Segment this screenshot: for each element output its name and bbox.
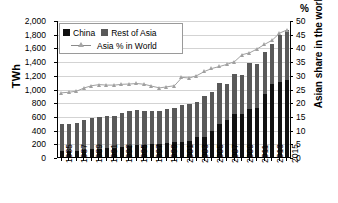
line-marker-triangle-icon [255,47,259,51]
x-tick-mark [151,158,152,161]
y2-tick-label: 25 [296,86,314,94]
x-tick-mark [121,158,122,161]
legend-label-rest-of-asia: Rest of Asia [111,28,156,38]
line-marker-triangle-icon [82,86,86,90]
legend-line-triangle-icon [71,42,91,49]
legend-swatch-china-icon [63,29,70,36]
line-marker-triangle-icon [59,91,63,95]
y2-tick-label: 30 [296,72,314,80]
y-tick-label: 0 [12,154,46,162]
x-tick-mark [98,158,99,161]
y2-tick-label: 15 [296,113,314,121]
line-marker-triangle-icon [240,53,244,57]
line-marker-triangle-icon [262,42,266,46]
x-tick-mark [61,158,62,161]
x-tick-mark [174,158,175,161]
x-tick-mark [256,158,257,161]
x-tick-mark [226,158,227,161]
line-marker-triangle-icon [179,75,183,79]
y-tick-label: 600 [12,113,46,121]
line-marker-triangle-icon [194,74,198,78]
y-tick-label: 200 [12,140,46,148]
x-tick-mark [106,158,107,161]
line-marker-triangle-icon [112,83,116,87]
y2-tick-label: 35 [296,58,314,66]
y2-tick-label: 50 [296,17,314,25]
line-marker-triangle-icon [232,60,236,64]
x-tick-mark [286,158,287,161]
line-marker-triangle-icon [67,90,71,94]
x-tick-mark [143,158,144,161]
line-marker-triangle-icon [104,83,108,87]
y2-tick-label: 20 [296,99,314,107]
legend-row-line: Asia % in World [63,39,179,52]
x-tick-mark [264,158,265,161]
chart-figure: TWh % Asian share in the world 2,0001,80… [0,0,338,203]
y-tick-label: 400 [12,127,46,135]
line-marker-triangle-icon [209,66,213,70]
y-tick-label: 1,000 [12,86,46,94]
x-tick-mark [166,158,167,161]
legend-label-asia-share: Asia % in World [97,41,157,51]
x-tick-mark [204,158,205,161]
x-tick-mark [249,158,250,161]
legend-swatch-rest-of-asia-icon [101,29,108,36]
line-marker-triangle-icon [172,84,176,88]
y-tick-mark [54,158,57,159]
x-tick-mark [181,158,182,161]
y-tick-label: 1,200 [12,72,46,80]
y2-tick-label: 40 [296,44,314,52]
x-tick-mark [113,158,114,161]
line-marker-triangle-icon [89,84,93,88]
line-marker-triangle-icon [270,38,274,42]
line-marker-triangle-icon [149,84,153,88]
x-tick-mark [189,158,190,161]
x-tick-mark [211,158,212,161]
legend-label-china: China [73,28,95,38]
x-tick-mark [241,158,242,161]
x-tick-mark [91,158,92,161]
x-tick-mark [158,158,159,161]
y2-axis-spine [290,21,291,158]
legend-row-bars: China Rest of Asia [63,26,179,39]
line-marker-triangle-icon [202,69,206,73]
line-marker-triangle-icon [119,82,123,86]
line-marker-triangle-icon [285,28,289,32]
line-marker-triangle-icon [142,82,146,86]
line-marker-triangle-icon [97,83,101,87]
chart-legend: China Rest of Asia Asia % in World [59,23,183,54]
line-marker-triangle-icon [225,62,229,66]
x-tick-mark [76,158,77,161]
line-marker-triangle-icon [127,82,131,86]
line-marker-triangle-icon [217,64,221,68]
y-tick-label: 1,800 [12,31,46,39]
line-marker-triangle-icon [247,51,251,55]
x-tick-mark [196,158,197,161]
x-tick-mark [128,158,129,161]
x-tick-mark [219,158,220,161]
x-tick-mark [83,158,84,161]
y2-tick-label: 10 [296,127,314,135]
y-tick-label: 1,400 [12,58,46,66]
x-tick-mark [271,158,272,161]
y2-axis-unit: % [300,3,309,14]
y-tick-label: 1,600 [12,44,46,52]
line-marker-triangle-icon [187,76,191,80]
x-tick-mark [279,158,280,161]
x-tick-mark [136,158,137,161]
y2-axis-title: Asian share in the world [313,0,324,111]
line-marker-triangle-icon [277,31,281,35]
x-tick-mark [234,158,235,161]
line-marker-triangle-icon [74,89,78,93]
line-marker-triangle-icon [134,81,138,85]
y-tick-label: 2,000 [12,17,46,25]
x-tick-label: 2015 [290,144,300,163]
y-tick-label: 800 [12,99,46,107]
line-marker-triangle-icon [164,85,168,89]
x-tick-mark [68,158,69,161]
y2-tick-label: 45 [296,31,314,39]
line-marker-triangle-icon [157,86,161,90]
